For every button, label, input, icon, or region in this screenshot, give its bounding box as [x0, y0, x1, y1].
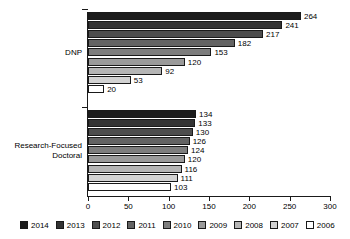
legend-label: 2014	[31, 221, 49, 230]
bar	[88, 146, 188, 154]
bar	[88, 183, 171, 191]
category-label-line: Doctoral	[0, 151, 82, 161]
bar	[88, 165, 182, 173]
bar-chart: 050100150200250300 DNPResearch-FocusedDo…	[0, 0, 350, 239]
bar-value-label: 124	[191, 147, 204, 155]
plot-area: 2642412171821531209253201341331301261241…	[88, 12, 330, 196]
legend-label: 2013	[67, 221, 85, 230]
x-axis-tick-label: 100	[154, 202, 184, 212]
legend-item: 2011	[127, 221, 155, 230]
x-axis-tick-label: 200	[234, 202, 264, 212]
bar	[88, 39, 235, 47]
x-axis-tick-label: 150	[194, 202, 224, 212]
bar-value-label: 120	[188, 59, 201, 67]
bar-value-label: 264	[304, 13, 317, 21]
legend-swatch	[270, 221, 278, 229]
bar	[88, 85, 104, 93]
legend-swatch	[20, 221, 28, 229]
bar-value-label: 134	[199, 111, 212, 119]
bar-value-label: 53	[134, 77, 143, 85]
bar-value-label: 182	[238, 40, 251, 48]
x-axis-tick-label: 250	[275, 202, 305, 212]
legend-swatch	[198, 221, 206, 229]
bar-value-label: 130	[196, 129, 209, 137]
y-axis-tick	[82, 9, 88, 10]
bar	[88, 128, 193, 136]
legend-label: 2010	[174, 221, 192, 230]
bar-value-label: 133	[198, 120, 211, 128]
legend-swatch	[163, 221, 171, 229]
category-label-line: DNP	[0, 48, 82, 58]
x-axis-tick	[169, 196, 170, 201]
bar-value-label: 120	[188, 156, 201, 164]
legend-swatch	[92, 221, 100, 229]
bar	[88, 110, 196, 118]
legend-item: 2009	[198, 221, 227, 230]
legend-item: 2012	[92, 221, 121, 230]
bar-value-label: 20	[107, 86, 116, 94]
bar	[88, 155, 185, 163]
x-axis-tick	[249, 196, 250, 201]
legend-swatch	[56, 221, 64, 229]
bar	[88, 58, 185, 66]
x-axis-tick	[128, 196, 129, 201]
x-axis-tick	[88, 196, 89, 201]
bar	[88, 12, 301, 20]
chart-legend: 201420132012201120102009200820072006	[20, 219, 342, 231]
x-axis-tick-label: 300	[315, 202, 345, 212]
bar-value-label: 126	[193, 138, 206, 146]
x-axis-tick	[330, 196, 331, 201]
bar	[88, 76, 131, 84]
bar-value-label: 153	[214, 49, 227, 57]
bar	[88, 137, 190, 145]
legend-label: 2011	[138, 221, 155, 230]
bar	[88, 67, 162, 75]
legend-swatch	[127, 221, 135, 229]
bar	[88, 48, 211, 56]
category-label-line: Research-Focused	[0, 141, 82, 151]
legend-label: 2008	[245, 221, 263, 230]
legend-item: 2007	[270, 221, 299, 230]
legend-item: 2006	[306, 221, 335, 230]
bar	[88, 30, 263, 38]
bar	[88, 119, 195, 127]
bar-value-label: 116	[185, 166, 198, 174]
legend-item: 2013	[56, 221, 85, 230]
x-axis-tick	[209, 196, 210, 201]
category-label: DNP	[0, 48, 82, 58]
legend-label: 2006	[317, 221, 335, 230]
x-axis-tick	[290, 196, 291, 201]
bar-value-label: 111	[181, 175, 193, 183]
bar-value-label: 241	[285, 22, 298, 30]
legend-item: 2014	[20, 221, 49, 230]
legend-label: 2007	[281, 221, 299, 230]
bar	[88, 21, 282, 29]
category-label: Research-FocusedDoctoral	[0, 141, 82, 161]
x-axis-tick-label: 50	[113, 202, 143, 212]
bar-value-label: 103	[174, 184, 187, 192]
x-axis-tick-label: 0	[73, 202, 103, 212]
legend-label: 2012	[103, 221, 121, 230]
legend-label: 2009	[209, 221, 227, 230]
bar	[88, 174, 178, 182]
legend-swatch	[306, 221, 314, 229]
bar-value-label: 92	[165, 68, 174, 76]
legend-item: 2010	[163, 221, 192, 230]
legend-swatch	[234, 221, 242, 229]
legend-item: 2008	[234, 221, 263, 230]
bar-value-label: 217	[266, 31, 279, 39]
